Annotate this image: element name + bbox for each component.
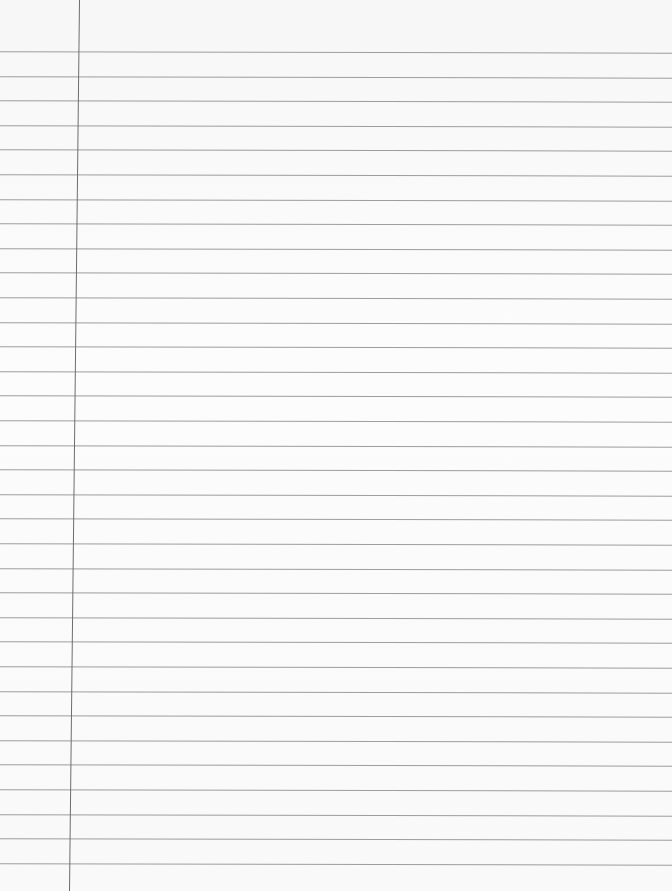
ruled-line — [0, 838, 672, 840]
ruled-line — [0, 740, 672, 742]
ruled-line — [0, 420, 672, 422]
ruled-line — [0, 174, 672, 176]
ruled-line — [0, 765, 672, 767]
ruled-line — [0, 396, 672, 398]
ruled-line — [0, 666, 672, 668]
ruled-line — [0, 100, 672, 102]
ruled-line — [0, 568, 672, 570]
ruled-line — [0, 322, 672, 324]
ruled-line — [0, 691, 672, 693]
ruled-line — [0, 469, 672, 471]
ruled-line — [0, 199, 672, 201]
ruled-line — [0, 273, 672, 275]
ruled-line — [0, 76, 672, 78]
ruled-line — [0, 371, 672, 373]
ruled-line — [0, 150, 672, 152]
ruled-line — [0, 51, 672, 53]
ruled-line — [0, 642, 672, 644]
ruled-line — [0, 445, 672, 447]
ruled-line — [0, 494, 672, 496]
ruled-line — [0, 346, 672, 348]
ruled-line — [0, 297, 672, 299]
ruled-line — [0, 543, 672, 545]
notebook-paper — [0, 0, 672, 891]
ruled-line — [0, 789, 672, 791]
ruled-line — [0, 223, 672, 225]
ruled-line — [0, 125, 672, 127]
ruled-line — [0, 592, 672, 594]
ruled-line — [0, 863, 672, 865]
ruled-line — [0, 519, 672, 521]
ruled-line — [0, 248, 672, 250]
ruled-line — [0, 617, 672, 619]
ruled-line — [0, 814, 672, 816]
ruled-line — [0, 715, 672, 717]
